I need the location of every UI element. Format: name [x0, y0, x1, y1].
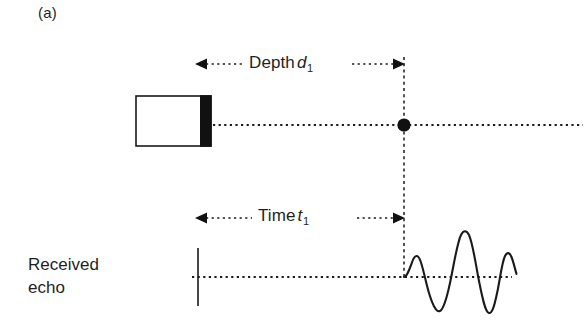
received-echo-line-1: Received [28, 253, 99, 276]
transducer-face [200, 95, 212, 147]
time-label-text: Time [258, 206, 296, 225]
depth-arrowhead-right [393, 59, 405, 70]
time-subscript: 1 [302, 215, 309, 227]
depth-subscript: 1 [306, 62, 313, 74]
received-echo-label: Received echo [28, 253, 99, 299]
transducer-body [136, 96, 211, 146]
time-label: Timet1 [258, 206, 309, 226]
transducer [136, 95, 212, 147]
figure-panel-a: (a) [0, 0, 587, 332]
depth-label-text: Depth [249, 53, 295, 72]
depth-arrowhead-left [195, 59, 207, 70]
time-arrowhead-left [195, 213, 207, 224]
received-echo-line-2: echo [28, 276, 99, 299]
target-point [397, 118, 410, 131]
depth-variable: d [295, 53, 307, 72]
echo-waveform [404, 231, 517, 313]
time-arrowhead-right [393, 213, 405, 224]
depth-label: Depthd1 [249, 53, 313, 73]
